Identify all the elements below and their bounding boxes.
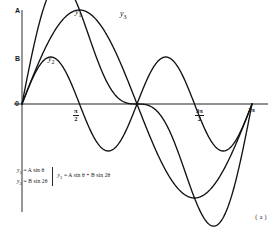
equation-brace xyxy=(52,167,53,186)
equation-y1: y1 = A sin θ xyxy=(17,167,47,175)
curve-label-y3: y3 xyxy=(120,10,127,20)
x-tick-two-pi: 2π xyxy=(248,107,255,114)
curve-label-y2: y2 xyxy=(48,55,55,65)
curve-label-y1: y1 xyxy=(75,8,82,18)
origin-label: 0 xyxy=(15,100,19,107)
curve-group xyxy=(22,0,252,226)
equation-y3-sub: 3 xyxy=(60,175,62,180)
plot-canvas xyxy=(0,0,275,234)
y-axis-mid-label: B xyxy=(15,55,20,62)
figure-caption: ( a ) xyxy=(255,214,267,220)
equation-block: y1 = A sin θ y2 = B sin 2θ y3 = A sin θ … xyxy=(17,167,110,186)
x-tick-pi-over-2: π 2 xyxy=(73,108,79,123)
curve-label-y1-sub: 1 xyxy=(79,12,82,18)
equation-column-right: y3 = A sin θ + B sin 2θ xyxy=(57,172,110,180)
equation-y2-sub: 2 xyxy=(20,181,22,186)
equation-y2: y2 = B sin 2θ xyxy=(17,178,47,186)
x-tick-pi-over-2-denominator: 2 xyxy=(73,116,79,123)
equation-y2-rhs: = B sin 2θ xyxy=(23,178,47,184)
y-axis-top-label: A xyxy=(15,7,20,14)
equation-y1-rhs: = A sin θ xyxy=(23,167,44,173)
waveform-figure: A B 0 π 2 3π 2 2π y1 y2 y3 y1 = A sin θ … xyxy=(0,0,275,234)
curve-label-y2-sub: 2 xyxy=(52,59,55,65)
x-tick-three-pi-over-2-denominator: 2 xyxy=(195,116,204,123)
equation-y1-sub: 1 xyxy=(20,170,22,175)
equation-column-left: y1 = A sin θ y2 = B sin 2θ xyxy=(17,167,47,186)
curve-label-y3-sub: 3 xyxy=(124,14,127,20)
equation-y3: y3 = A sin θ + B sin 2θ xyxy=(57,172,110,180)
x-tick-three-pi-over-2: 3π 2 xyxy=(195,108,204,123)
curve-y3 xyxy=(22,0,252,226)
equation-y3-rhs: = A sin θ + B sin 2θ xyxy=(64,172,110,178)
